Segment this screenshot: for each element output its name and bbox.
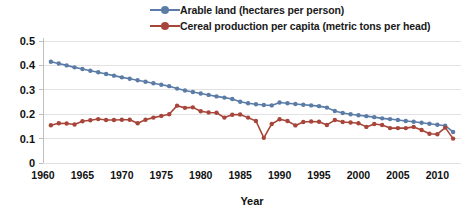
data-point [57,61,61,65]
data-point [167,112,171,116]
data-point [238,112,242,116]
data-point [151,81,155,85]
data-point [112,118,116,122]
data-point [72,122,76,126]
data-point [143,80,147,84]
y-tick-label: 0.1 [20,133,35,145]
data-point [285,101,289,105]
y-tick-label: 0.3 [20,84,35,96]
data-point [396,118,400,122]
data-point [372,122,376,126]
data-point [254,119,258,123]
chart-container: Arable land (hectares per person) Cereal… [0,0,469,213]
data-point [214,94,218,98]
data-point [396,126,400,130]
plot-area: 00.10.20.30.40.5 19601965197019751980198… [0,0,469,213]
data-point [199,91,203,95]
data-point [143,118,147,122]
data-point [254,102,258,106]
data-point [183,106,187,110]
data-point [88,69,92,73]
data-point [214,111,218,115]
data-point [277,117,281,121]
data-point [451,130,455,134]
y-tick-labels: 00.10.20.30.40.5 [20,35,36,169]
data-point [64,121,68,125]
x-tick-label: 1965 [71,169,95,181]
x-tick-label: 2010 [426,169,450,181]
data-point [341,111,345,115]
data-point [388,117,392,121]
data-point [262,136,266,140]
data-point [262,103,266,107]
plot-svg: 00.10.20.30.40.5 19601965197019751980198… [0,0,469,213]
x-tick-label: 1990 [268,169,292,181]
x-tick-label: 1970 [110,169,134,181]
data-point [427,122,431,126]
data-point [270,103,274,107]
x-tick-label: 1960 [31,169,55,181]
data-point [325,123,329,127]
data-point [222,95,226,99]
data-point [341,120,345,124]
data-point [191,90,195,94]
data-point [80,119,84,123]
data-point [246,115,250,119]
data-point [309,119,313,123]
data-point [128,77,132,81]
data-point [364,114,368,118]
data-point [80,67,84,71]
x-tick-label: 1980 [189,169,213,181]
data-point [135,121,139,125]
data-point [333,109,337,113]
data-point [388,126,392,130]
data-point [451,136,455,140]
data-point [435,132,439,136]
data-point [301,120,305,124]
x-tick-label: 2005 [386,169,410,181]
data-point [427,132,431,136]
data-point [230,112,234,116]
data-point [151,115,155,119]
series-line [51,106,453,139]
axis-ticks [39,41,43,163]
data-point [49,60,53,64]
data-point [64,63,68,67]
data-point [159,82,163,86]
data-series [49,103,456,140]
data-point [104,72,108,76]
data-point [317,120,321,124]
x-axis-title: Year [240,195,264,207]
data-point [301,102,305,106]
data-point [317,104,321,108]
data-point [380,116,384,120]
data-point [135,78,139,82]
data-point [96,70,100,74]
data-point [325,105,329,109]
data-point [112,73,116,77]
x-tick-label: 1975 [150,169,174,181]
data-series [49,60,456,135]
data-point [238,100,242,104]
y-tick-label: 0.5 [20,35,35,47]
data-point [356,113,360,117]
data-point [270,122,274,126]
data-point [159,114,163,118]
data-series-group [49,60,456,141]
x-tick-labels: 1960196519701975198019851990199520002005… [31,169,449,181]
data-point [404,126,408,130]
y-tick-label: 0.2 [20,108,35,120]
x-tick-label: 1995 [307,169,331,181]
data-point [183,88,187,92]
data-point [411,125,415,129]
data-point [333,118,337,122]
data-point [199,109,203,113]
data-point [435,122,439,126]
data-point [443,125,447,129]
data-point [419,121,423,125]
data-point [175,103,179,107]
data-point [380,123,384,127]
data-point [96,117,100,121]
data-point [309,103,313,107]
data-point [57,121,61,125]
